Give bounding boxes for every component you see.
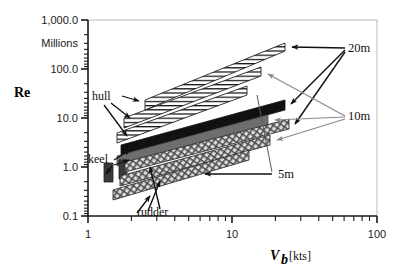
y-tick-label: 0.1 — [63, 210, 78, 222]
y-tick-label: 1.0 — [63, 161, 78, 173]
x-tick-label: 1 — [85, 228, 91, 240]
y-axis-units-label: Millions — [41, 37, 78, 49]
x-axis-title-subscript: b — [281, 252, 288, 267]
x-axis-title: V b [kts] — [270, 248, 311, 267]
y-axis — [81, 20, 88, 216]
x-axis-title-symbol: V — [270, 248, 281, 263]
y-tick-label: 1,000.0 — [41, 14, 78, 26]
y-axis-title: Re — [14, 85, 30, 100]
reynolds-vs-speed-chart: 1,000.0 100.0 10.0 1.0 0.1 Millions Re 1… — [0, 0, 400, 275]
len-5m-label: 5m — [278, 167, 294, 181]
hull-label: hull — [92, 89, 111, 103]
len-20m-arrow-hull — [292, 47, 345, 48]
len-20m-label: 20m — [348, 41, 371, 55]
x-axis — [88, 216, 377, 223]
x-tick-label: 10 — [226, 228, 238, 240]
y-tick-label: 100.0 — [50, 63, 78, 75]
len-10m-label: 10m — [348, 109, 371, 123]
figure-root: 1,000.0 100.0 10.0 1.0 0.1 Millions Re 1… — [0, 0, 400, 275]
x-tick-label: 100 — [368, 228, 386, 240]
y-tick-label: 10.0 — [57, 112, 78, 124]
x-tick-labels: 1 10 100 — [85, 228, 386, 240]
keel-label: keel — [88, 152, 109, 166]
x-axis-title-unit: [kts] — [289, 249, 311, 263]
